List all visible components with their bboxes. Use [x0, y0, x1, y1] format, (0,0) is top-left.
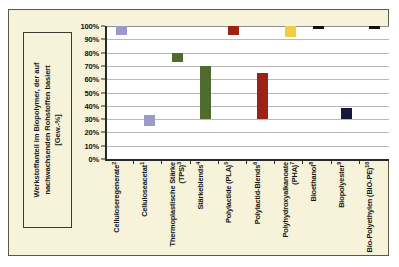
- y-tick-mark: [101, 52, 105, 53]
- x-category-label: Stärkeblends4: [197, 162, 210, 258]
- x-category-footnote: 9: [336, 162, 342, 165]
- x-category-footnote: 7: [288, 162, 294, 165]
- y-tick-mark: [101, 145, 105, 146]
- y-tick-mark: [101, 119, 105, 120]
- x-category-label-text: Stärkeblends: [196, 165, 205, 210]
- range-bar: [341, 108, 352, 119]
- range-bar: [257, 73, 268, 120]
- y-tick-label: 80%: [85, 48, 99, 57]
- range-bar: [200, 66, 211, 119]
- x-category-label-text: Polylactide (PLA): [224, 165, 233, 223]
- x-axis-category-labels: Celluloseregenerate2Celluloseacetat1Ther…: [105, 162, 387, 262]
- x-category-footnote: 2: [110, 162, 116, 165]
- x-category-footnote: 6: [251, 162, 257, 165]
- y-tick-label: 70%: [85, 61, 99, 70]
- y-tick-label: 100%: [81, 22, 99, 31]
- y-tick-label: 60%: [85, 75, 99, 84]
- gridline: [107, 53, 389, 54]
- x-category-label: Polylactid-Blends6: [254, 162, 267, 258]
- y-axis-tick-labels: 100%90%80%70%60%50%40%30%20%10%0%: [75, 26, 101, 159]
- y-axis-title-unit: [Gew.-%]: [53, 114, 62, 145]
- y-axis-title-main: Werkstoffanteil im Biopolymer, der auf n…: [32, 63, 52, 198]
- y-tick-label: 20%: [85, 128, 99, 137]
- gridline: [107, 132, 389, 133]
- y-tick-mark: [101, 26, 105, 27]
- y-tick-label: 50%: [85, 88, 99, 97]
- gridline: [107, 66, 389, 67]
- y-tick-mark: [101, 105, 105, 106]
- x-category-label-text: Celluloseacetat: [140, 165, 149, 217]
- x-category-label-text: Celluloseregenerate: [112, 165, 121, 233]
- x-category-footnote: 4: [195, 162, 201, 165]
- x-category-footnote: 5: [223, 162, 229, 165]
- x-category-label-text: Biopolyester: [337, 165, 346, 208]
- chart-figure: Werkstoffanteil im Biopolymer, der auf n…: [0, 0, 399, 267]
- x-category-footnote: 3: [175, 162, 181, 165]
- y-tick-mark: [101, 159, 105, 160]
- x-category-label-text: Polyhydroxyalkanoate (PHA): [281, 162, 299, 237]
- x-category-label: Thermoplastische Stärke (TPS)3: [169, 162, 182, 258]
- range-bar: [172, 53, 183, 62]
- gridline: [107, 106, 389, 107]
- y-tick-mark: [101, 39, 105, 40]
- range-bar: [313, 26, 324, 29]
- y-tick-label: 30%: [85, 115, 99, 124]
- x-category-label-text: Bio-Polyethylen (BIO-PE): [365, 168, 374, 253]
- x-category-footnote: 1: [138, 162, 144, 165]
- x-category-footnote: 8: [308, 162, 314, 165]
- y-tick-label: 90%: [85, 35, 99, 44]
- gridline: [107, 39, 389, 40]
- chart-panel: Werkstoffanteil im Biopolymer, der auf n…: [8, 9, 389, 256]
- gridline: [107, 146, 389, 147]
- range-bar: [144, 115, 155, 126]
- x-category-label: Bio-Polyethylen (BIO-PE)10: [366, 162, 379, 258]
- range-bar: [116, 26, 127, 35]
- y-tick-mark: [101, 65, 105, 66]
- y-axis-title-box: Werkstoffanteil im Biopolymer, der auf n…: [23, 32, 72, 228]
- y-axis-title-text: Werkstoffanteil im Biopolymer, der auf n…: [32, 33, 64, 227]
- y-tick-mark: [101, 79, 105, 80]
- x-category-label: Polyhydroxyalkanoate (PHA)7: [282, 162, 295, 258]
- range-bar: [369, 26, 380, 29]
- x-category-label: Bioethanol8: [310, 162, 323, 258]
- gridline: [107, 26, 389, 27]
- x-category-label-text: Bioethanol: [309, 165, 318, 202]
- x-category-label: Polylactide (PLA)5: [225, 162, 238, 258]
- gridline: [107, 93, 389, 94]
- plot-wrapper: 100%90%80%70%60%50%40%30%20%10%0%: [75, 26, 390, 171]
- y-tick-label: 10%: [85, 141, 99, 150]
- x-category-label-text: Thermoplastische Stärke (TPS): [168, 162, 186, 246]
- x-category-footnote: 10: [364, 162, 370, 168]
- x-category-label: Celluloseacetat1: [141, 162, 154, 258]
- plot-area: [107, 26, 389, 159]
- y-tick-mark: [101, 132, 105, 133]
- y-tick-label: 40%: [85, 101, 99, 110]
- range-bar: [285, 26, 296, 37]
- gridline: [107, 79, 389, 80]
- x-category-label: Celluloseregenerate2: [113, 162, 126, 258]
- range-bar: [228, 26, 239, 35]
- plot-axes: [105, 26, 389, 161]
- x-category-label-text: Polylactid-Blends: [253, 165, 262, 224]
- y-tick-mark: [101, 92, 105, 93]
- x-category-label: Biopolyester9: [338, 162, 351, 258]
- y-tick-label: 0%: [89, 155, 99, 164]
